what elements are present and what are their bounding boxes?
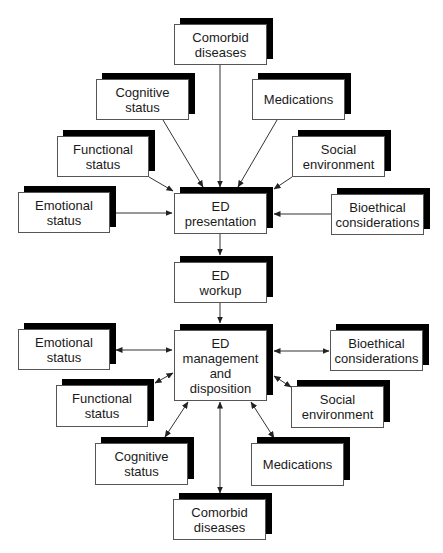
node-label: ED workup <box>200 268 242 298</box>
node-ed-presentation: ED presentation <box>174 193 267 234</box>
node-bottom-social: Social environment <box>291 386 384 428</box>
node-bottom-functional: Functional status <box>56 385 148 427</box>
edge-top-cognitive-to-ed-presentation <box>163 120 203 187</box>
node-top-comorbid: Comorbid diseases <box>174 24 267 65</box>
node-box: ED presentation <box>174 193 267 234</box>
node-label: Medications <box>263 457 332 472</box>
node-bottom-medications: Medications <box>251 443 344 486</box>
node-box: Functional status <box>56 385 148 427</box>
node-box: Emotional status <box>18 329 110 370</box>
node-label: Social environment <box>302 392 374 422</box>
node-top-medications: Medications <box>252 79 345 120</box>
node-label: Bioethical considerations <box>335 336 419 366</box>
node-box: Cognitive status <box>95 443 188 485</box>
node-box: Cognitive status <box>96 79 189 120</box>
node-label: Cognitive status <box>114 449 168 479</box>
edge-ed-management-to-bottom-functional <box>155 373 173 383</box>
node-top-emotional: Emotional status <box>18 192 110 233</box>
node-top-cognitive: Cognitive status <box>96 79 189 120</box>
node-label: ED presentation <box>185 199 257 229</box>
edge-top-functional-to-ed-presentation <box>149 177 173 191</box>
node-bottom-emotional: Emotional status <box>18 329 110 370</box>
node-box: Functional status <box>57 136 149 177</box>
node-bottom-cognitive: Cognitive status <box>95 443 188 485</box>
node-label: Functional status <box>73 142 133 172</box>
node-label: Emotional status <box>35 198 93 228</box>
node-label: Emotional status <box>35 335 93 365</box>
node-box: Bioethical considerations <box>331 194 424 235</box>
node-label: Medications <box>264 92 333 107</box>
node-box: Emotional status <box>18 192 110 233</box>
node-ed-workup: ED workup <box>174 262 267 303</box>
edge-top-medications-to-ed-presentation <box>238 120 277 187</box>
edge-ed-management-to-bottom-cognitive <box>165 402 188 437</box>
node-bottom-bioethical: Bioethical considerations <box>330 330 423 371</box>
node-label: Bioethical considerations <box>336 200 420 230</box>
node-box: Medications <box>251 443 344 486</box>
node-top-social: Social environment <box>292 136 385 177</box>
edge-top-social-to-ed-presentation <box>274 177 292 189</box>
node-box: Social environment <box>291 386 384 428</box>
node-box: Bioethical considerations <box>330 330 423 371</box>
edge-ed-management-to-bottom-medications <box>251 402 274 438</box>
diagram-canvas: Comorbid diseases Cognitive status Medic… <box>0 0 443 553</box>
node-label: Functional status <box>72 391 132 421</box>
node-top-bioethical: Bioethical considerations <box>331 194 424 235</box>
node-box: ED management and disposition <box>174 330 267 401</box>
node-box: Comorbid diseases <box>173 499 266 540</box>
edge-ed-management-to-bottom-social <box>274 376 291 387</box>
node-label: ED management and disposition <box>183 336 259 396</box>
node-box: Medications <box>252 79 345 120</box>
node-label: Comorbid diseases <box>191 505 247 535</box>
node-box: Comorbid diseases <box>174 24 267 65</box>
node-bottom-comorbid: Comorbid diseases <box>173 499 266 540</box>
node-label: Cognitive status <box>115 85 169 115</box>
node-box: ED workup <box>174 262 267 303</box>
node-label: Comorbid diseases <box>192 30 248 60</box>
node-label: Social environment <box>303 142 375 172</box>
node-ed-management: ED management and disposition <box>174 330 267 401</box>
node-box: Social environment <box>292 136 385 177</box>
node-top-functional: Functional status <box>57 136 149 177</box>
